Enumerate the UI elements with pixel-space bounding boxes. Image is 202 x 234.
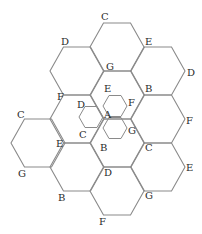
large-hexagon	[131, 95, 185, 143]
vertex-label: B	[100, 142, 107, 153]
small-hexagon	[103, 118, 127, 139]
large-hexagon-grid	[11, 23, 185, 215]
vertex-label: E	[145, 36, 152, 47]
vertex-label: A	[103, 109, 112, 120]
vertex-label: F	[99, 216, 106, 227]
vertex-label: F	[128, 97, 135, 108]
large-hexagon	[131, 143, 185, 191]
vertex-label: C	[101, 11, 109, 22]
large-hexagon	[90, 23, 144, 71]
vertex-label: C	[17, 109, 25, 120]
vertex-label: B	[58, 192, 65, 203]
vertex-label: C	[145, 142, 153, 153]
vertex-label: G	[145, 190, 153, 201]
hexagon-diagram: CDEGDFEBDFACFCGEBCGDEBGF	[0, 0, 202, 234]
vertex-label: E	[104, 83, 111, 94]
vertex-label: F	[186, 115, 193, 126]
vertex-label: D	[77, 99, 85, 110]
vertex-label: G	[106, 61, 114, 72]
vertex-label: F	[57, 91, 64, 102]
large-hexagon	[90, 167, 144, 215]
vertex-label: E	[56, 138, 63, 149]
vertex-label: G	[18, 168, 26, 179]
vertex-label: E	[186, 162, 193, 173]
vertex-label: D	[187, 67, 195, 78]
vertex-label: B	[145, 83, 152, 94]
vertex-label: D	[104, 167, 112, 178]
vertex-label: G	[128, 125, 136, 136]
large-hexagon	[50, 47, 104, 95]
large-hexagon	[50, 143, 104, 191]
vertex-label: D	[61, 36, 69, 47]
large-hexagon	[131, 47, 185, 95]
vertex-label: C	[79, 129, 87, 140]
